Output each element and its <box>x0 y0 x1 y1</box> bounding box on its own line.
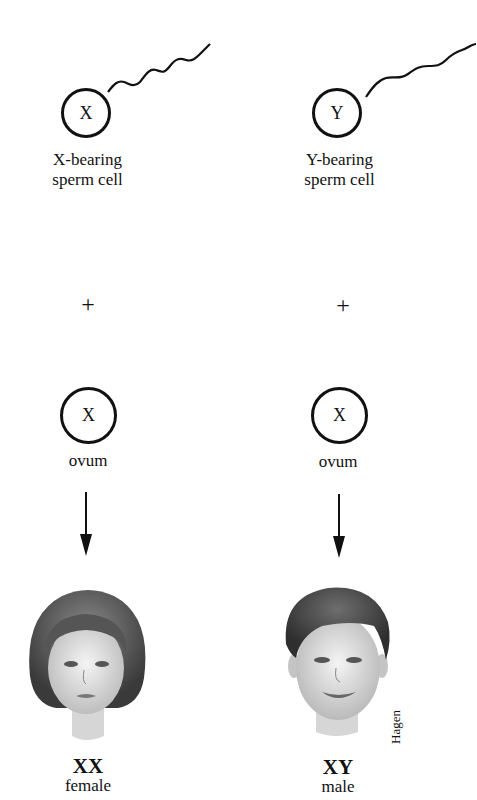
label-line: sperm cell <box>282 170 397 190</box>
arrow-down-right-icon <box>329 492 349 562</box>
sperm-x-circle: X <box>61 88 111 138</box>
chromosome-symbol: X <box>80 103 93 124</box>
genotype-xy: XY <box>288 757 388 777</box>
plus-sign-right: + <box>328 293 358 317</box>
label-line: Y-bearing <box>282 150 397 170</box>
chromosome-symbol: X <box>333 405 346 426</box>
sex-label-female: female <box>38 776 138 796</box>
artist-signature: Hagen <box>388 710 404 744</box>
sex-label-male: male <box>288 777 388 797</box>
chromosome-symbol: Y <box>331 103 344 124</box>
ovum-right-circle: X <box>311 387 368 444</box>
plus-sign-left: + <box>73 292 103 316</box>
label-line: sperm cell <box>30 170 145 190</box>
ovum-left-circle: X <box>60 387 117 444</box>
genotype-xx: XX <box>38 756 138 776</box>
ovum-right-label: ovum <box>298 452 378 472</box>
label-line: X-bearing <box>30 150 145 170</box>
arrow-down-left-icon <box>76 490 96 560</box>
result-male: XY male <box>288 757 388 797</box>
chromosome-symbol: X <box>82 405 95 426</box>
sperm-x-label: X-bearing sperm cell <box>30 150 145 190</box>
sperm-y-label: Y-bearing sperm cell <box>282 150 397 190</box>
sperm-tail-left <box>0 0 240 120</box>
female-child-portrait <box>22 586 150 746</box>
sperm-y-circle: Y <box>312 88 362 138</box>
male-child-portrait <box>282 582 394 742</box>
ovum-left-label: ovum <box>48 451 128 471</box>
result-female: XX female <box>38 756 138 796</box>
